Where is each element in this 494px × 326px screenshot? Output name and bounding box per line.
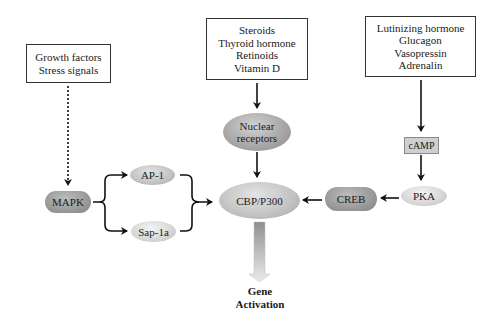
node-creb: CREB [325, 187, 377, 211]
node-ap1: AP-1 [130, 165, 175, 185]
input-box-line: Retinoids [207, 49, 307, 62]
input-box-growth-factors: Growth factors Stress signals [26, 44, 111, 83]
input-box-line: Thyroid hormone [207, 37, 307, 50]
node-label: Sap-1a [138, 226, 169, 238]
node-label: MAPK [52, 196, 84, 208]
input-box-line: Growth factors [27, 51, 110, 64]
input-box-line: Vasopressin [366, 47, 475, 60]
node-mapk: MAPK [45, 191, 91, 213]
input-box-steroids: Steroids Thyroid hormone Retinoids Vitam… [206, 18, 308, 80]
node-label: receptors [237, 132, 277, 144]
node-label: cAMP [408, 140, 434, 152]
input-box-line: Stress signals [27, 64, 110, 77]
gene-activation-label: Gene Activation [229, 285, 291, 311]
node-camp: cAMP [404, 137, 439, 154]
node-label: Nuclear [240, 120, 275, 132]
node-cbp-p300: CBP/P300 [219, 182, 300, 219]
edge-ap1-merge [180, 175, 212, 202]
gene-activation-arrow [249, 222, 270, 282]
input-box-line: Adrenalin [366, 59, 475, 72]
input-box-line: Steroids [207, 24, 307, 37]
node-label: PKA [413, 190, 435, 202]
edge-mapk-fork [93, 175, 127, 202]
input-box-line: Vitamin D [207, 62, 307, 75]
node-label: CBP/P300 [236, 195, 282, 207]
gene-activation-line: Gene [229, 285, 291, 298]
edge-sap1a-merge [180, 202, 199, 231]
node-pka: PKA [401, 186, 447, 206]
edge-mapk-fork-lower [100, 202, 127, 231]
node-label: CREB [337, 193, 366, 205]
gene-activation-line: Activation [229, 298, 291, 311]
node-label: AP-1 [141, 169, 164, 181]
input-box-line: Glucagon [366, 34, 475, 47]
node-nuclear-receptors: Nuclear receptors [223, 113, 291, 151]
input-box-hormones: Lutinizing hormone Glucagon Vasopressin … [365, 16, 476, 77]
node-sap1a: Sap-1a [131, 221, 176, 242]
input-box-line: Lutinizing hormone [366, 22, 475, 35]
